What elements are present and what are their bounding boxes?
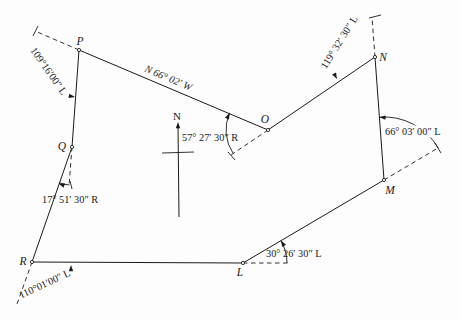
angle-label-L: 30° 26′ 30″ L — [266, 248, 322, 259]
station-marker-O — [266, 128, 269, 131]
station-label-L: L — [236, 266, 243, 278]
station-marker-Q — [70, 145, 73, 148]
angle-label-Q: 17° 51′ 30″ R — [42, 194, 98, 205]
station-label-O: O — [261, 113, 270, 125]
station-label-N: N — [378, 51, 388, 63]
station-marker-P — [77, 48, 80, 51]
angle-label-M: 66° 03′ 00″ L — [385, 126, 441, 137]
station-label-Q: Q — [58, 140, 67, 152]
north-label: N — [173, 110, 181, 122]
station-marker-L — [241, 261, 244, 264]
diagram-canvas: N109°16′00″ LN 66° 02′ W119° 32′ 30″ L57… — [0, 0, 460, 320]
station-label-R: R — [18, 255, 26, 267]
angle-label-O: 57° 27′ 30″ R — [182, 132, 238, 143]
station-label-P: P — [75, 35, 83, 47]
station-marker-N — [373, 55, 376, 58]
station-marker-R — [30, 260, 33, 263]
station-marker-M — [382, 178, 385, 181]
traverse-figure: N109°16′00″ LN 66° 02′ W119° 32′ 30″ L57… — [0, 0, 460, 320]
station-label-M: M — [384, 184, 396, 196]
